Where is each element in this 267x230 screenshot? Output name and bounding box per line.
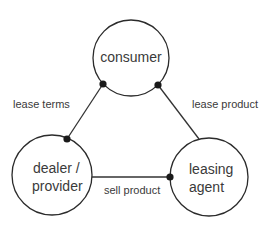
connector-dot-consumer-left xyxy=(99,80,106,87)
edge-label-sell-product: sell product xyxy=(104,184,160,196)
edge-lease-product xyxy=(158,85,199,139)
consumer-label: consumer xyxy=(100,49,162,65)
dealer-label-line1: dealer / xyxy=(33,160,80,176)
node-dealer-provider: dealer / provider xyxy=(12,135,92,215)
leasing-agent-label-line2: agent xyxy=(189,179,224,195)
connector-dot-consumer-right xyxy=(154,81,161,88)
edge-lease-terms xyxy=(67,84,103,139)
edge-label-lease-product: lease product xyxy=(192,98,258,110)
leasing-agent-circle xyxy=(170,138,248,216)
edge-label-lease-terms: lease terms xyxy=(13,98,70,110)
relationship-diagram: consumer dealer / provider leasing agent… xyxy=(0,0,267,230)
node-leasing-agent: leasing agent xyxy=(170,138,248,216)
connector-dot-dealer-top xyxy=(63,135,70,142)
dealer-label-line2: provider xyxy=(32,178,83,194)
leasing-agent-label-line1: leasing xyxy=(189,161,233,177)
connector-dot-leasing-agent-left xyxy=(166,173,173,180)
